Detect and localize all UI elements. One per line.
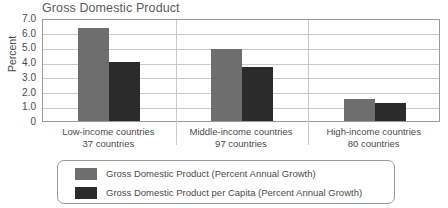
y-axis-tick-label: 0	[4, 117, 36, 127]
y-axis-tick-label: 1.0	[4, 102, 36, 112]
x-axis-tick-label: Low-income countries37 countries	[42, 126, 175, 150]
legend-item[interactable]: Gross Domestic Product per Capita (Perce…	[75, 183, 394, 202]
bar-gdp	[211, 49, 242, 121]
legend-item[interactable]: Gross Domestic Product (Percent Annual G…	[75, 164, 394, 183]
x-label-category: Middle-income countries	[190, 126, 293, 137]
x-axis-tick-label: Middle-income countries97 countries	[175, 126, 308, 150]
y-axis-tick-label: 2.0	[4, 88, 36, 98]
bar-gdp-per-capita	[375, 103, 406, 121]
gdp-bar-chart: Gross Domestic Product Percent 01.02.03.…	[0, 0, 448, 208]
legend-label: Gross Domestic Product per Capita (Perce…	[106, 187, 362, 198]
x-label-category: Low-income countries	[62, 126, 154, 137]
chart-legend: Gross Domestic Product (Percent Annual G…	[57, 160, 395, 204]
legend-swatch	[75, 187, 97, 199]
x-axis-tick-label: High-income countries80 countries	[307, 126, 440, 150]
x-label-count: 97 countries	[175, 138, 308, 150]
legend-label: Gross Domestic Product (Percent Annual G…	[106, 168, 316, 179]
bar-gdp-per-capita	[242, 67, 273, 121]
y-axis-title: Percent	[6, 19, 18, 89]
plot-area	[42, 19, 440, 122]
bar-gdp	[344, 99, 375, 121]
x-label-category: High-income countries	[326, 126, 421, 137]
chart-title: Gross Domestic Product	[42, 1, 180, 15]
legend-swatch	[75, 168, 97, 180]
x-label-count: 37 countries	[42, 138, 175, 150]
bar-gdp-per-capita	[109, 62, 140, 121]
x-label-count: 80 countries	[307, 138, 440, 150]
bar-gdp	[78, 28, 109, 121]
